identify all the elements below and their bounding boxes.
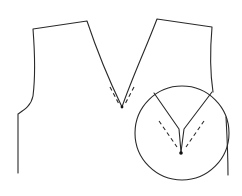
detail-seam-dash-right [186,121,204,147]
left-bodice-panel [18,21,122,173]
detail-v-left [154,93,181,152]
detail-magnifier-circle [135,86,229,180]
right-panel-side-seam [226,117,228,175]
neckline-v-point [121,106,124,109]
pattern-diagram: Garment pattern: front bodice pieces wit… [0,0,242,196]
pattern-drawing [0,0,242,196]
detail-seam-dash-left [159,121,177,147]
right-bodice-panel [122,19,213,107]
detail-v-point [179,151,183,155]
seam-allowance-dash-left [110,87,119,104]
detail-v-right [181,92,212,152]
